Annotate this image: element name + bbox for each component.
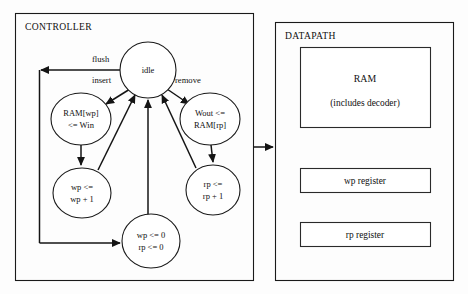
state-ram-write-circle[interactable] [51,93,111,145]
edge-label-flush: flush [92,54,110,64]
edge-insert-idle-to-ramwrite [106,89,130,104]
fsm-block-diagram: CONTROLLER DATAPATH [0,0,468,294]
state-rp-incr-label-line1: rp <= [204,179,223,189]
ram-block-label: RAM [354,73,377,84]
state-wp-incr-label-line2: wp + 1 [70,194,94,204]
rp-register-label: rp register [346,230,385,240]
state-rp-incr[interactable]: rp <= rp + 1 [186,165,240,215]
datapath-rp-register-block[interactable]: rp register [301,223,431,247]
state-rp-incr-circle[interactable] [186,165,240,215]
state-wout-read-label-line1: Wout <= [195,108,225,118]
state-idle-label: idle [142,65,155,75]
wp-register-label: wp register [344,176,387,186]
state-reset-ptrs-circle[interactable] [122,214,180,268]
state-rp-incr-label-line2: rp + 1 [203,191,223,201]
state-wout-read-label-line2: RAM[rp] [194,120,226,130]
state-wp-incr[interactable]: wp <= wp + 1 [53,168,111,218]
state-reset-ptrs-label-line1: wp <= 0 [137,230,165,240]
edge-woutread-to-rpincr [211,145,213,162]
state-idle[interactable]: idle [120,42,176,98]
edge-label-insert: insert [92,75,112,85]
fsm-transitions [40,70,214,243]
state-reset-ptrs-label-line2: rp <= 0 [138,242,163,252]
edge-label-remove: remove [175,75,201,85]
edge-remove-idle-to-woutread [167,89,189,104]
state-reset-ptrs[interactable]: wp <= 0 rp <= 0 [122,214,180,268]
state-wp-incr-circle[interactable] [53,168,111,218]
state-wp-incr-label-line1: wp <= [71,182,93,192]
state-wout-read-circle[interactable] [180,93,240,145]
figure-canvas: CONTROLLER DATAPATH [0,0,468,294]
ram-block-sublabel: (includes decoder) [330,98,400,109]
state-wout-read[interactable]: Wout <= RAM[rp] [180,93,240,145]
datapath-ram-block[interactable]: RAM (includes decoder) [301,48,431,128]
state-ram-write-label-line2: <= Win [68,120,95,130]
datapath-title: DATAPATH [285,30,336,41]
controller-title: CONTROLLER [25,21,92,32]
state-ram-write-label-line1: RAM[wp] [63,108,99,118]
ram-block-border[interactable] [301,48,431,128]
state-ram-write[interactable]: RAM[wp] <= Win [51,93,111,145]
datapath-wp-register-block[interactable]: wp register [301,169,431,193]
